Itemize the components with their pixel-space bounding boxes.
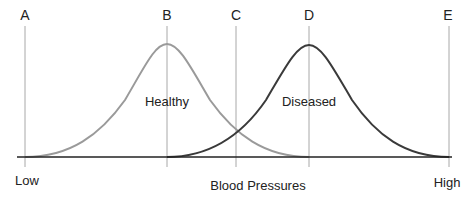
marker-label-b: B [162,7,171,23]
healthy-label: Healthy [145,94,190,109]
axis-high-label: High [434,175,461,190]
axis-title: Blood Pressures [210,178,306,193]
marker-label-c: C [231,7,241,23]
diseased-label: Diseased [282,94,336,109]
marker-label-d: D [304,7,314,23]
axis-low-label: Low [15,173,39,188]
marker-label-a: A [20,7,30,23]
marker-label-e: E [443,7,452,23]
blood-pressure-distribution-diagram: A B C D E Healthy Diseased Low High Bloo… [0,0,471,200]
